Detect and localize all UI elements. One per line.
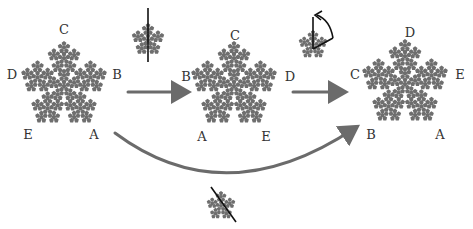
pentaflake-rotated: [362, 39, 448, 120]
diagonal-reflection-icon: [207, 187, 236, 222]
vertex-label-b: B: [112, 68, 122, 81]
vertex-label-b: B: [181, 70, 191, 83]
vertex-label-a: A: [197, 130, 206, 143]
vertex-label-d: D: [285, 70, 295, 83]
vertex-label-e: E: [261, 130, 271, 143]
rotation-72deg-icon: [299, 11, 333, 57]
vertex-label-b: B: [366, 128, 376, 141]
vertex-label-d: D: [7, 68, 17, 81]
vertex-label-c: C: [350, 68, 360, 81]
vertex-label-d: D: [405, 26, 415, 39]
pentaflake-original: [21, 41, 107, 122]
vertex-label-c: C: [59, 23, 69, 36]
vertex-label-a: A: [89, 128, 98, 141]
pentaflake-reflected: [191, 41, 277, 122]
vertex-label-a: A: [435, 128, 444, 141]
vertical-reflection-icon: [132, 8, 164, 62]
vertex-label-e: E: [455, 68, 465, 81]
vertex-label-e: E: [23, 128, 33, 141]
arrow-curved: [115, 128, 355, 173]
vertex-label-c: C: [230, 29, 240, 42]
